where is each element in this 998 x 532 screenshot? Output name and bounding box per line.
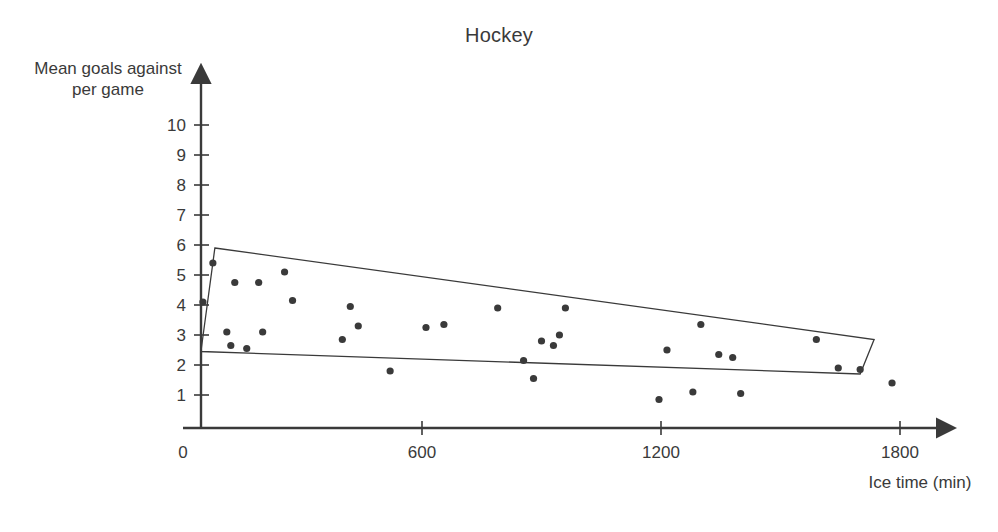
data-point xyxy=(556,331,563,338)
data-point xyxy=(689,388,696,395)
chart-figure: Hockey Mean goals against per game Ice t… xyxy=(0,0,998,532)
data-point xyxy=(550,342,557,349)
data-point xyxy=(289,297,296,304)
y-tick-label: 10 xyxy=(167,116,186,135)
data-point xyxy=(281,268,288,275)
data-point xyxy=(255,279,262,286)
data-point xyxy=(663,346,670,353)
data-point xyxy=(520,357,527,364)
y-tick-label: 8 xyxy=(177,176,186,195)
data-point xyxy=(857,366,864,373)
y-tick-label: 1 xyxy=(177,386,186,405)
x-tick-label: 0 xyxy=(178,443,187,462)
y-tick-label: 3 xyxy=(177,326,186,345)
data-point xyxy=(655,396,662,403)
y-tick-label: 2 xyxy=(177,356,186,375)
data-point xyxy=(355,322,362,329)
data-points-group xyxy=(199,259,895,403)
data-point xyxy=(243,345,250,352)
data-point xyxy=(223,328,230,335)
axis-group xyxy=(183,82,938,428)
data-point xyxy=(347,303,354,310)
data-point xyxy=(387,367,394,374)
data-point xyxy=(530,375,537,382)
data-point xyxy=(259,328,266,335)
y-tick-label: 6 xyxy=(177,236,186,255)
data-point xyxy=(199,298,206,305)
data-point xyxy=(835,364,842,371)
y-axis-ticks: 12345678910 xyxy=(167,116,209,405)
correlation-band-group xyxy=(201,248,874,374)
data-point xyxy=(813,336,820,343)
scatter-plot-canvas: 060012001800 12345678910 xyxy=(0,0,998,532)
data-point xyxy=(715,351,722,358)
correlation-band xyxy=(201,248,874,374)
data-point xyxy=(422,324,429,331)
y-tick-label: 4 xyxy=(177,296,186,315)
data-point xyxy=(494,304,501,311)
y-tick-label: 7 xyxy=(177,206,186,225)
y-tick-label: 5 xyxy=(177,266,186,285)
x-tick-label: 600 xyxy=(408,443,436,462)
x-tick-label: 1200 xyxy=(642,443,680,462)
data-point xyxy=(888,379,895,386)
data-point xyxy=(697,321,704,328)
data-point xyxy=(562,304,569,311)
data-point xyxy=(729,354,736,361)
data-point xyxy=(227,342,234,349)
data-point xyxy=(231,279,238,286)
data-point xyxy=(737,390,744,397)
data-point xyxy=(339,336,346,343)
data-point xyxy=(538,337,545,344)
x-tick-label: 1800 xyxy=(881,443,919,462)
y-tick-label: 9 xyxy=(177,146,186,165)
data-point xyxy=(209,259,216,266)
data-point xyxy=(440,321,447,328)
